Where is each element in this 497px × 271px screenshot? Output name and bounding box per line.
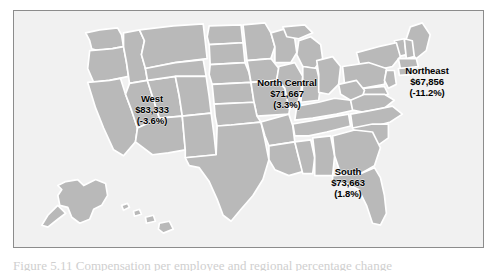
region-change-west: (-3.6%) <box>110 115 194 126</box>
region-value-northeast: $67,856 <box>385 76 469 87</box>
region-name-south: South <box>306 166 390 177</box>
state-hawaii-4 <box>158 221 173 233</box>
figure-caption: Figure 5.11 Compensation per employee an… <box>13 259 484 271</box>
state-michigan-up <box>283 25 313 39</box>
state-minnesota <box>243 23 275 61</box>
map-panel: West $83,333 (-3.6%) North Central $71,6… <box>13 10 484 248</box>
region-label-west: West $83,333 (-3.6%) <box>110 93 194 127</box>
figure-container: West $83,333 (-3.6%) North Central $71,6… <box>0 0 497 271</box>
region-change-south: (1.8%) <box>306 188 390 199</box>
state-alaska <box>58 180 108 224</box>
region-change-northeast: (-11.2%) <box>385 87 469 98</box>
state-northdakota <box>207 25 243 45</box>
region-value-north-central: $71,667 <box>235 88 339 99</box>
state-hawaii-3 <box>145 215 155 223</box>
state-newhampshire <box>404 39 414 59</box>
region-label-north-central: North Central $71,667 (3.3%) <box>235 77 339 111</box>
state-shapes-group <box>42 23 430 233</box>
region-value-west: $83,333 <box>110 104 194 115</box>
state-oregon <box>88 47 129 83</box>
region-label-northeast: Northeast $67,856 (-11.2%) <box>385 65 469 99</box>
state-hawaii-2 <box>133 209 141 216</box>
region-change-north-central: (3.3%) <box>235 99 339 110</box>
region-label-south: South $73,663 (1.8%) <box>306 166 390 200</box>
state-southdakota <box>209 43 245 65</box>
state-hawaii-1 <box>122 203 130 210</box>
us-regions-map <box>14 11 483 247</box>
state-alaska-tail <box>42 205 66 227</box>
region-name-north-central: North Central <box>235 77 339 88</box>
region-name-northeast: Northeast <box>385 65 469 76</box>
region-name-west: West <box>110 93 194 104</box>
region-value-south: $73,663 <box>306 177 390 188</box>
